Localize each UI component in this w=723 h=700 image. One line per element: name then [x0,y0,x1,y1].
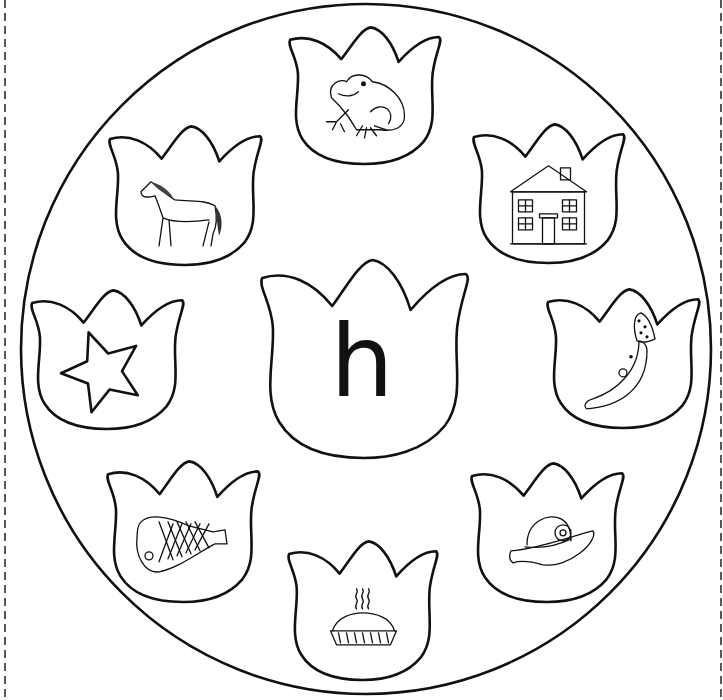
worksheet: h [0,0,723,700]
tulip-moon [547,289,699,428]
tulip-hat [471,463,623,602]
tulip-horse [109,126,261,265]
center-tulip: h [261,260,467,458]
tulip-outline [31,290,183,429]
tulip-frog [289,27,440,164]
tulip-ham [107,461,259,602]
tulip-pie [288,541,437,680]
tulip-star [31,290,183,429]
tulip-outline [547,289,699,428]
tulip-outline [473,124,624,263]
tulip-house [473,124,624,263]
tulip-outline [288,541,437,680]
tulip-outline [289,27,440,164]
tulip-outline [109,126,261,265]
tulip-outline [471,463,623,602]
tulip-outline [107,461,259,602]
center-letter: h [330,303,393,420]
